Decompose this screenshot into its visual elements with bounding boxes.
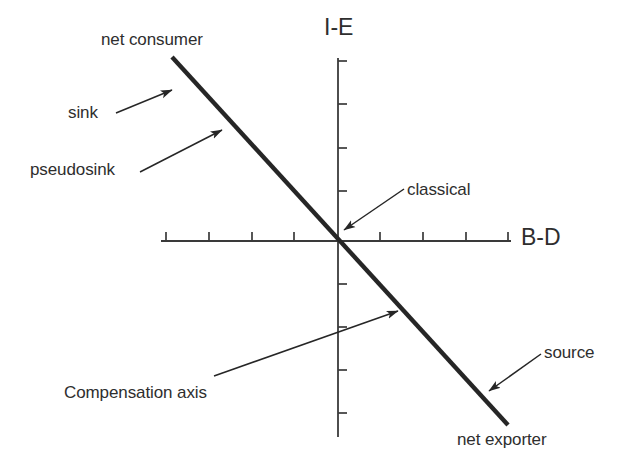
x-axis-label: B-D: [521, 224, 561, 250]
annotation-sink: sink: [68, 103, 98, 123]
annotation-pseudosink: pseudosink: [30, 160, 115, 180]
annotation-net-consumer: net consumer: [101, 30, 203, 50]
pseudosink-arrow: [140, 130, 222, 172]
sink-arrow: [116, 90, 172, 113]
y-axis-label: I-E: [324, 14, 353, 40]
classical-arrow: [344, 189, 404, 230]
diagram-canvas: I-E B-D net consumer sink pseudosink cla…: [0, 0, 633, 468]
source-arrow: [489, 354, 541, 391]
annotation-compensation-axis: Compensation axis: [64, 383, 207, 403]
vertical-axis-ticks: [338, 61, 347, 413]
compensation-axis-arrow: [214, 311, 398, 376]
annotation-source: source: [544, 343, 594, 363]
annotation-classical: classical: [407, 180, 470, 200]
annotation-net-exporter: net exporter: [457, 430, 547, 450]
